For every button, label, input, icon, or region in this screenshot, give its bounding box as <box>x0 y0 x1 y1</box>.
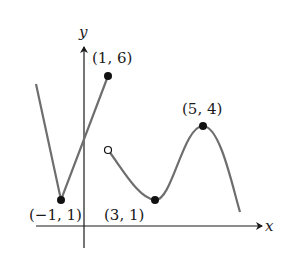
label-3-1: (3, 1) <box>104 206 144 224</box>
v-segment <box>36 76 108 200</box>
label-5-4: (5, 4) <box>182 100 222 118</box>
label-neg1-1: (−1, 1) <box>29 206 82 224</box>
open-point <box>105 147 112 154</box>
x-axis-label: x <box>265 217 274 235</box>
point-1-6 <box>104 72 112 80</box>
label-1-6: (1, 6) <box>92 49 132 67</box>
curve-segment <box>108 126 240 212</box>
y-axis-label: y <box>78 23 88 41</box>
point-3-1 <box>151 196 159 204</box>
function-graph: x y (1, 6) (−1, 1) (3, 1) (5, 4) <box>0 0 285 257</box>
point-neg1-1 <box>57 196 65 204</box>
point-5-4 <box>199 122 207 130</box>
